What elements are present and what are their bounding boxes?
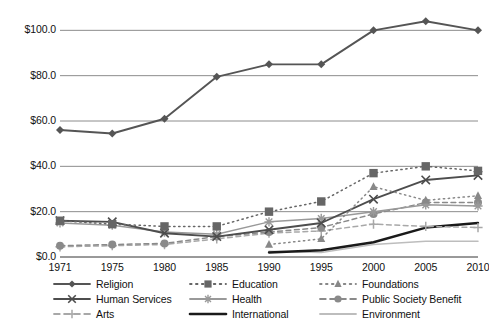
legend-item-religion[interactable]: Religion	[52, 276, 188, 291]
legend-label: Public Society Benefit	[358, 293, 461, 305]
legend-column-3: Foundations Public Society Benefit Envir…	[318, 276, 484, 324]
data-point-marker	[317, 234, 325, 242]
data-point-marker	[213, 222, 221, 230]
data-point-marker	[422, 17, 430, 25]
data-point-marker	[68, 309, 76, 317]
x-tick-label: 1995	[310, 261, 333, 273]
data-point-marker	[334, 279, 341, 286]
x-tick-label: 2000	[362, 261, 385, 273]
series-line	[60, 21, 478, 133]
data-point-marker	[265, 240, 273, 248]
legend-label: Foundations	[358, 278, 419, 290]
x-tick-label: 1971	[49, 261, 72, 273]
x-tick-label: 2005	[414, 261, 437, 273]
legend-item-health[interactable]: Health	[188, 291, 318, 306]
foundations-line-icon	[318, 277, 358, 291]
data-point-marker	[474, 191, 482, 199]
data-point-marker	[264, 217, 273, 226]
legend-label: Arts	[92, 308, 114, 320]
education-line-icon	[188, 277, 228, 291]
data-point-marker	[204, 280, 211, 287]
data-point-marker	[369, 220, 378, 229]
legend-column-2: Education Health International	[188, 276, 318, 324]
legend-item-environment[interactable]: Environment	[318, 306, 484, 321]
legend-label: Human Services	[92, 293, 172, 305]
data-point-marker	[56, 217, 64, 225]
data-point-marker	[369, 169, 377, 177]
data-point-marker	[265, 60, 273, 68]
data-point-marker	[56, 242, 64, 250]
data-point-marker	[108, 220, 116, 228]
data-point-marker	[108, 129, 116, 137]
legend-label: Religion	[92, 278, 133, 290]
x-tick-label: 1975	[101, 261, 124, 273]
chart-legend: Religion Human Services Arts Education H…	[52, 276, 484, 324]
data-point-marker	[369, 195, 377, 203]
legend-label: International	[228, 308, 289, 320]
data-point-marker	[422, 162, 430, 170]
public-society-benefit-line-icon	[318, 292, 358, 306]
legend-label: Education	[228, 278, 278, 290]
environment-line-icon	[318, 307, 358, 321]
legend-item-human-services[interactable]: Human Services	[52, 291, 188, 306]
religion-line-icon	[52, 277, 92, 291]
data-point-marker	[317, 197, 325, 205]
x-tick-label: 1985	[205, 261, 228, 273]
data-point-marker	[68, 280, 75, 287]
legend-label: Health	[228, 293, 262, 305]
data-point-marker	[56, 126, 64, 134]
data-point-marker	[474, 167, 482, 175]
data-point-marker	[160, 222, 168, 230]
x-tick-label: 1990	[258, 261, 281, 273]
human-services-line-icon	[52, 292, 92, 306]
international-line-icon	[188, 307, 228, 321]
data-point-marker	[473, 201, 482, 210]
data-point-marker	[334, 295, 341, 302]
legend-item-foundations[interactable]: Foundations	[318, 276, 484, 291]
series-religion	[56, 17, 482, 137]
x-tick-label: 1980	[153, 261, 176, 273]
x-tick-label: 2010	[467, 261, 489, 273]
legend-column-1: Religion Human Services Arts	[52, 276, 188, 324]
data-point-marker	[474, 26, 482, 34]
legend-item-public-society-benefit[interactable]: Public Society Benefit	[318, 291, 484, 306]
legend-label: Environment	[358, 308, 420, 320]
data-point-marker	[204, 294, 212, 302]
health-line-icon	[188, 292, 228, 306]
legend-item-arts[interactable]: Arts	[52, 306, 188, 321]
data-point-marker	[161, 239, 169, 247]
legend-item-international[interactable]: International	[188, 306, 318, 321]
arts-line-icon	[52, 307, 92, 321]
legend-item-education[interactable]: Education	[188, 276, 318, 291]
data-point-marker	[265, 207, 273, 215]
data-point-marker	[369, 207, 378, 216]
data-point-marker	[370, 182, 378, 190]
data-point-marker	[108, 241, 116, 249]
